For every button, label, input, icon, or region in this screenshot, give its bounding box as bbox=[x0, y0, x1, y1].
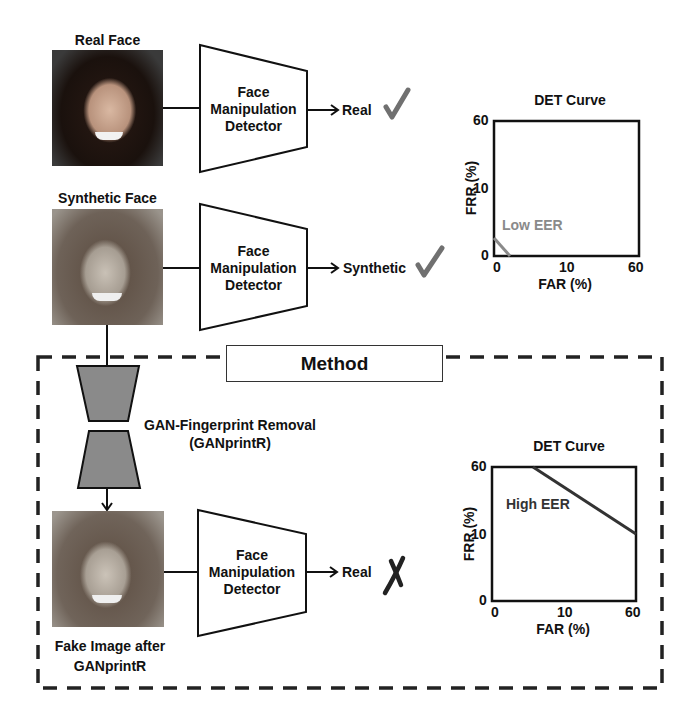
gan-module-label-line2: (GANprintR) bbox=[130, 434, 330, 452]
det1-xtick-10: 10 bbox=[559, 259, 575, 275]
det1-ytick-60: 60 bbox=[473, 112, 489, 128]
detector-label-line: Face bbox=[198, 547, 306, 564]
real-face-image bbox=[52, 50, 163, 166]
output-label-synthetic: Synthetic bbox=[343, 260, 406, 276]
det1-ylabel: FRR (%) bbox=[463, 153, 479, 223]
check-icon-synthetic bbox=[418, 248, 442, 275]
method-title-box: Method bbox=[226, 345, 443, 382]
check-icon-real bbox=[386, 90, 408, 117]
detector-label-line: Detector bbox=[198, 581, 306, 598]
gan-module-label: GAN-Fingerprint Removal (GANprintR) bbox=[130, 416, 330, 452]
det1-xtick-60: 60 bbox=[628, 259, 644, 275]
det-plot-frame-1 bbox=[494, 121, 639, 256]
detector-label-3: Face Manipulation Detector bbox=[198, 547, 306, 598]
det-chart-2-title: DET Curve bbox=[519, 438, 619, 454]
gan-module-label-line1: GAN-Fingerprint Removal bbox=[130, 416, 330, 434]
det1-ytick-0: 0 bbox=[481, 247, 489, 263]
detector-label-line: Manipulation bbox=[200, 260, 307, 277]
det2-xtick-0: 0 bbox=[491, 604, 499, 620]
detector-label-1: Face Manipulation Detector bbox=[200, 84, 307, 135]
detector-label-2: Face Manipulation Detector bbox=[200, 243, 307, 294]
det1-xtick-0: 0 bbox=[493, 259, 501, 275]
det2-ytick-60: 60 bbox=[471, 458, 487, 474]
det1-xlabel: FAR (%) bbox=[530, 276, 600, 292]
fake-face-caption: Fake Image after GANprintR bbox=[35, 636, 185, 676]
output-label-real: Real bbox=[342, 102, 372, 118]
synthetic-face-caption: Synthetic Face bbox=[45, 190, 170, 206]
synthetic-face-image bbox=[52, 209, 163, 325]
detector-label-line: Manipulation bbox=[198, 564, 306, 581]
det-chart-1-title: DET Curve bbox=[520, 92, 620, 108]
det2-ytick-0: 0 bbox=[479, 592, 487, 608]
fake-face-caption-line2: GANprintR bbox=[35, 656, 185, 676]
det2-xtick-10: 10 bbox=[557, 604, 573, 620]
det2-xlabel: FAR (%) bbox=[528, 621, 598, 637]
method-title: Method bbox=[301, 353, 369, 375]
fake-face-caption-line1: Fake Image after bbox=[35, 636, 185, 656]
output-label-fake-real: Real bbox=[342, 564, 372, 580]
gan-encoder-shape bbox=[77, 366, 139, 421]
det1-annotation: Low EER bbox=[502, 217, 563, 233]
detector-label-line: Detector bbox=[200, 118, 307, 135]
det2-xtick-60: 60 bbox=[625, 604, 641, 620]
detector-label-line: Face bbox=[200, 84, 307, 101]
det2-annotation: High EER bbox=[506, 496, 570, 512]
detector-label-line: Detector bbox=[200, 277, 307, 294]
det2-ylabel: FRR (%) bbox=[461, 499, 477, 569]
real-face-caption: Real Face bbox=[52, 32, 163, 48]
detector-label-line: Face bbox=[200, 243, 307, 260]
detector-label-line: Manipulation bbox=[200, 101, 307, 118]
fake-face-image bbox=[52, 511, 164, 627]
